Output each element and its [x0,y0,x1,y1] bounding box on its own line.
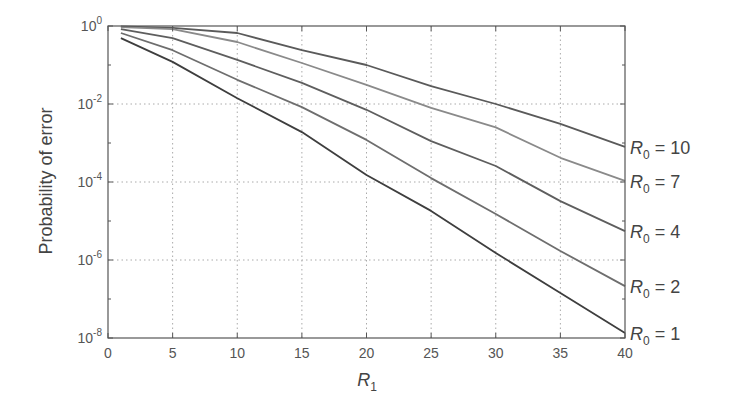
series-label: R0 = 2 [630,277,680,301]
x-tick-label: 40 [617,345,633,361]
series-label: R0 = 7 [630,172,680,196]
x-tick-label: 30 [488,345,504,361]
y-tick-label: 10-2 [78,93,103,112]
y-tick-label: 10-6 [78,249,103,268]
x-tick-label: 0 [104,345,112,361]
series-line-r01 [121,38,625,333]
x-tick-label: 10 [229,345,245,361]
series-label: R0 = 1 [630,324,680,348]
series-line-r02 [121,33,625,286]
y-tick-label: 10-4 [78,171,103,190]
y-tick-labels: 10010-210-410-610-8 [78,15,103,346]
x-tick-label: 35 [553,345,569,361]
series-line-r04 [121,29,625,231]
grid-lines [108,26,625,338]
x-tick-labels: 0510152025303540 [104,345,633,361]
x-tick-label: 25 [423,345,439,361]
y-axis-title: Probability of error [36,107,56,254]
series-label: R0 = 10 [630,138,690,162]
x-tick-label: 15 [294,345,310,361]
y-tick-label: 100 [81,15,103,34]
x-tick-label: 5 [169,345,177,361]
data-series [121,26,625,333]
y-tick-label: 10-8 [78,327,103,346]
x-axis-title: R1 [357,370,377,394]
x-tick-label: 20 [359,345,375,361]
series-label: R0 = 4 [630,222,680,246]
line-chart: 0510152025303540 10010-210-410-610-8 R0 … [0,0,734,404]
series-labels: R0 = 10R0 = 7R0 = 4R0 = 2R0 = 1 [630,138,690,348]
